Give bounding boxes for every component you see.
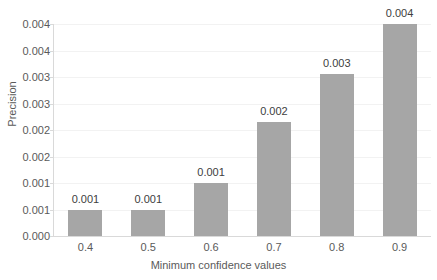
bar[interactable]	[194, 183, 228, 236]
y-axis-tick-label: 0.001	[6, 204, 50, 216]
y-axis-tick-mark	[50, 77, 54, 78]
x-axis-line	[53, 236, 431, 237]
y-axis-tick-label: 0.002	[6, 151, 50, 163]
gridline	[54, 183, 431, 184]
y-axis-tick-mark	[50, 24, 54, 25]
y-axis-tick-label: 0.004	[6, 45, 50, 57]
bar-chart: Precision 0.0040.0040.0030.0030.0020.002…	[0, 0, 437, 280]
x-axis-tick-label: 0.6	[203, 241, 218, 253]
y-axis-tick-mark	[50, 51, 54, 52]
gridline	[54, 24, 431, 25]
y-axis-tick-mark	[50, 236, 54, 237]
gridline	[54, 51, 431, 52]
y-axis-tick-label: 0.004	[6, 18, 50, 30]
x-axis-tick-label: 0.5	[141, 241, 156, 253]
bar-value-label: 0.003	[323, 57, 351, 69]
bar-value-label: 0.002	[260, 105, 288, 117]
y-axis-tick-label: 0.000	[6, 230, 50, 242]
y-axis-tick-mark	[50, 210, 54, 211]
bar-value-label: 0.004	[386, 7, 414, 19]
x-axis-tick-label: 0.8	[329, 241, 344, 253]
y-axis-tick-label: 0.003	[6, 98, 50, 110]
y-axis-tick-labels: 0.0040.0040.0030.0030.0020.0020.0010.001…	[0, 0, 50, 280]
x-axis-tick-label: 0.9	[392, 241, 407, 253]
bar[interactable]	[257, 122, 291, 236]
y-axis-tick-label: 0.003	[6, 71, 50, 83]
y-axis-tick-mark	[50, 130, 54, 131]
y-axis-tick-label: 0.002	[6, 124, 50, 136]
gridline	[54, 210, 431, 211]
bar-value-label: 0.001	[134, 193, 162, 205]
bar[interactable]	[320, 74, 354, 236]
bar[interactable]	[68, 210, 102, 237]
gridline	[54, 77, 431, 78]
y-axis-tick-label: 0.001	[6, 177, 50, 189]
bar-value-label: 0.001	[197, 166, 225, 178]
gridline	[54, 130, 431, 131]
x-axis-title: Minimum confidence values	[0, 259, 437, 271]
bar[interactable]	[383, 24, 417, 236]
gridline	[54, 104, 431, 105]
y-axis-tick-mark	[50, 157, 54, 158]
y-axis-tick-mark	[50, 104, 54, 105]
gridline	[54, 157, 431, 158]
bar-value-label: 0.001	[72, 193, 100, 205]
x-axis-tick-label: 0.7	[266, 241, 281, 253]
x-axis-tick-label: 0.4	[78, 241, 93, 253]
plot-area	[54, 24, 431, 236]
y-axis-tick-mark	[50, 183, 54, 184]
bar[interactable]	[131, 210, 165, 237]
